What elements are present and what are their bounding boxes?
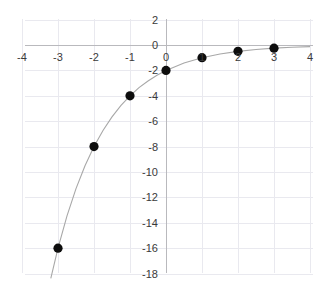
x-tick-label: -1 xyxy=(125,51,135,63)
curve-path xyxy=(51,47,310,279)
x-tick-label: 2 xyxy=(235,51,241,63)
y-tick-label: -10 xyxy=(142,166,158,178)
y-tick-label: -16 xyxy=(142,242,158,254)
x-tick-label: -3 xyxy=(53,51,63,63)
x-tick-label: 4 xyxy=(307,51,313,63)
y-axis-tick-labels: 20-2-4-6-8-10-12-14-16-18 xyxy=(142,14,158,280)
x-tick-label: -2 xyxy=(89,51,99,63)
data-point xyxy=(161,66,170,75)
y-tick-label: -14 xyxy=(142,217,158,229)
data-point xyxy=(125,91,134,100)
y-tick-label: 0 xyxy=(152,39,158,51)
y-tick-label: -2 xyxy=(148,64,158,76)
y-tick-label: -4 xyxy=(148,90,158,102)
data-point xyxy=(53,244,62,253)
chart-container: -4-3-2-101234 20-2-4-6-8-10-12-14-16-18 xyxy=(0,0,322,295)
x-tick-label: 0 xyxy=(163,51,169,63)
exponential-decay-chart: -4-3-2-101234 20-2-4-6-8-10-12-14-16-18 xyxy=(0,0,322,295)
x-tick-label: -4 xyxy=(17,51,27,63)
y-tick-label: -12 xyxy=(142,191,158,203)
data-point xyxy=(89,142,98,151)
x-axis-tick-labels: -4-3-2-101234 xyxy=(17,51,313,63)
x-tick-label: 1 xyxy=(199,51,205,63)
y-tick-label: -8 xyxy=(148,141,158,153)
y-tick-label: -6 xyxy=(148,115,158,127)
y-tick-label: 2 xyxy=(152,14,158,26)
y-tick-label: -18 xyxy=(142,268,158,280)
x-tick-label: 3 xyxy=(271,51,277,63)
